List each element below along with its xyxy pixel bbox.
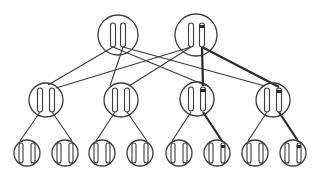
chromosome-rod	[189, 23, 194, 47]
inheritance-edge	[20, 112, 40, 141]
chromosome-rod	[247, 143, 251, 163]
chromosome-marker	[221, 145, 225, 148]
node-b5	[166, 140, 192, 166]
cell-circle	[104, 83, 138, 117]
node-b8	[280, 140, 306, 166]
node-group	[14, 14, 306, 166]
inheritance-edge	[110, 47, 123, 86]
cell-circle	[280, 140, 306, 166]
chromosome-marker	[297, 145, 301, 148]
cell-circle	[204, 140, 230, 166]
chromosome-rod	[38, 88, 43, 112]
cell-circle	[256, 83, 290, 117]
diagram-canvas	[0, 0, 319, 178]
inheritance-edge	[56, 47, 191, 88]
cell-circle	[52, 140, 78, 166]
chromosome-marker	[277, 90, 282, 93]
chromosome-marker	[201, 89, 206, 92]
chromosome-rod	[265, 88, 270, 112]
chromosome-rod	[57, 143, 61, 163]
chromosome-rod	[209, 143, 213, 163]
inheritance-edge	[52, 112, 72, 141]
node-b7	[242, 140, 268, 166]
cell-circle	[127, 140, 153, 166]
chromosome-rod	[31, 143, 35, 163]
inheritance-edge	[96, 112, 115, 141]
inheritance-edge	[129, 47, 191, 86]
traced-lineage-edge	[203, 112, 222, 141]
chromosome-rod	[121, 23, 126, 47]
node-m3	[180, 82, 214, 116]
inheritance-tree-diagram	[0, 0, 319, 178]
chromosome-rod	[171, 143, 175, 163]
node-t2	[175, 14, 217, 56]
node-m4	[256, 83, 290, 117]
chromosome-rod	[259, 143, 263, 163]
chromosome-marker	[200, 25, 205, 28]
chromosome-rod	[132, 143, 136, 163]
chromosome-rod	[189, 87, 194, 111]
cell-circle	[180, 82, 214, 116]
node-b6	[204, 140, 230, 166]
inheritance-edge	[127, 112, 147, 141]
chromosome-rod	[111, 23, 116, 47]
cell-circle	[89, 140, 115, 166]
inheritance-edge	[48, 47, 113, 85]
chromosome-rod	[113, 88, 118, 112]
node-b1	[14, 140, 40, 166]
inheritance-edge	[172, 112, 191, 141]
cell-circle	[175, 14, 217, 56]
node-m1	[29, 83, 63, 117]
node-b2	[52, 140, 78, 166]
node-b4	[127, 140, 153, 166]
inheritance-edge	[248, 112, 267, 141]
chromosome-rod	[50, 88, 55, 112]
chromosome-rod	[19, 143, 23, 163]
cell-circle	[29, 83, 63, 117]
cell-circle	[166, 140, 192, 166]
traced-lineage-edge	[202, 47, 279, 87]
chromosome-rod	[69, 143, 73, 163]
node-b3	[89, 140, 115, 166]
traced-lineage-edge	[279, 112, 298, 141]
cell-circle	[14, 140, 40, 166]
traced-lineage-edge	[202, 47, 203, 86]
node-m2	[104, 83, 138, 117]
chromosome-rod	[144, 143, 148, 163]
cell-circle	[242, 140, 268, 166]
chromosome-rod	[125, 88, 130, 112]
chromosome-rod	[94, 143, 98, 163]
chromosome-rod	[106, 143, 110, 163]
chromosome-rod	[183, 143, 187, 163]
chromosome-rod	[285, 143, 289, 163]
